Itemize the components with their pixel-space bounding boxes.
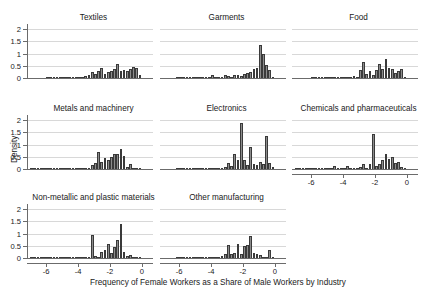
y-tick bbox=[23, 157, 27, 158]
panel-title: Textiles bbox=[27, 13, 160, 23]
plot-area: 00.511.52-6-4-20 bbox=[27, 204, 153, 259]
y-tick bbox=[23, 246, 27, 247]
panel-electronics: Electronics bbox=[160, 104, 293, 187]
plot-area: 00.511.52 bbox=[27, 115, 153, 170]
x-tick-label: -4 bbox=[75, 267, 82, 276]
panel-title: Other manufacturing bbox=[160, 193, 293, 203]
histogram-bar bbox=[372, 134, 375, 170]
panel-title: Metals and machinery bbox=[27, 104, 160, 114]
y-tick-label: 0.5 bbox=[10, 242, 21, 251]
y-tick-label: 0.5 bbox=[10, 62, 21, 71]
plot-area bbox=[160, 24, 286, 79]
panel-garments: Garments bbox=[160, 13, 293, 96]
y-axis-line bbox=[27, 24, 28, 79]
y-axis-line bbox=[27, 115, 28, 170]
x-tick-label: -6 bbox=[176, 267, 183, 276]
zero-baseline bbox=[292, 78, 418, 79]
y-tick-label: 0.5 bbox=[10, 153, 21, 162]
y-axis-line bbox=[27, 204, 28, 259]
bars-group bbox=[292, 24, 418, 79]
plot-area bbox=[292, 24, 418, 79]
zero-baseline bbox=[27, 169, 153, 170]
bars-group bbox=[292, 115, 418, 170]
y-tick-label: 2 bbox=[17, 116, 21, 125]
panel-title: Garments bbox=[160, 13, 293, 23]
x-tick-label: -2 bbox=[240, 267, 247, 276]
panel-metals-and-machinery: Metals and machinery00.511.52 bbox=[27, 104, 160, 187]
bars-group bbox=[27, 24, 153, 79]
zero-baseline bbox=[160, 78, 286, 79]
y-tick-label: 1.5 bbox=[10, 217, 21, 226]
zero-baseline bbox=[160, 258, 286, 259]
panel-textiles: Textiles00.511.52 bbox=[27, 13, 160, 96]
panel-title: Food bbox=[292, 13, 425, 23]
y-tick-label: 2 bbox=[17, 25, 21, 34]
y-tick-label: 2 bbox=[17, 205, 21, 214]
panel-non-metallic-and-plastic-materials: Non-metallic and plastic materials00.511… bbox=[27, 193, 160, 276]
y-tick-label: 1 bbox=[17, 141, 21, 150]
x-tick-label: 0 bbox=[140, 267, 144, 276]
y-tick bbox=[23, 78, 27, 79]
x-tick-label: -2 bbox=[107, 267, 114, 276]
figure-canvas: Density Frequency of Female Workers as a… bbox=[0, 0, 436, 298]
y-tick-label: 0 bbox=[17, 74, 21, 83]
y-tick bbox=[23, 120, 27, 121]
y-tick bbox=[23, 234, 27, 235]
y-tick-label: 1 bbox=[17, 50, 21, 59]
x-tick-label: 0 bbox=[273, 267, 277, 276]
plot-area bbox=[160, 115, 286, 170]
panel-title: Electronics bbox=[160, 104, 293, 114]
x-tick-label: -4 bbox=[340, 178, 347, 187]
x-tick-label: -4 bbox=[208, 267, 215, 276]
plot-area: 00.511.52 bbox=[27, 24, 153, 79]
y-tick bbox=[23, 221, 27, 222]
plot-area: -6-4-20 bbox=[160, 204, 286, 259]
y-tick bbox=[23, 132, 27, 133]
y-tick-label: 0 bbox=[17, 165, 21, 174]
bars-group bbox=[160, 204, 286, 259]
y-tick bbox=[23, 145, 27, 146]
y-tick bbox=[23, 29, 27, 30]
y-tick-label: 1.5 bbox=[10, 128, 21, 137]
bars-group bbox=[160, 115, 286, 170]
zero-baseline bbox=[292, 169, 418, 170]
y-tick bbox=[23, 66, 27, 67]
y-tick-label: 1.5 bbox=[10, 37, 21, 46]
x-tick-label: -6 bbox=[308, 178, 315, 187]
y-tick bbox=[23, 54, 27, 55]
panel-title: Non-metallic and plastic materials bbox=[27, 193, 160, 203]
panel-other-manufacturing: Other manufacturing-6-4-20 bbox=[160, 193, 293, 276]
bars-group bbox=[160, 24, 286, 79]
bars-group bbox=[27, 115, 153, 170]
y-tick bbox=[23, 209, 27, 210]
zero-baseline bbox=[160, 169, 286, 170]
y-tick-label: 0 bbox=[17, 254, 21, 263]
zero-baseline bbox=[27, 258, 153, 259]
panel-food: Food bbox=[292, 13, 425, 96]
plot-area: -6-4-20 bbox=[292, 115, 418, 170]
x-axis-title: Frequency of Female Workers as a Share o… bbox=[0, 278, 436, 287]
panel-title: Chemicals and pharmaceuticals bbox=[292, 104, 425, 114]
y-tick bbox=[23, 258, 27, 259]
zero-baseline bbox=[27, 78, 153, 79]
x-tick-label: -2 bbox=[372, 178, 379, 187]
x-tick-label: 0 bbox=[405, 178, 409, 187]
bars-group bbox=[27, 204, 153, 259]
x-tick-label: -6 bbox=[43, 267, 50, 276]
panel-chemicals-and-pharmaceuticals: Chemicals and pharmaceuticals-6-4-20 bbox=[292, 104, 425, 187]
y-tick-label: 1 bbox=[17, 230, 21, 239]
y-tick bbox=[23, 41, 27, 42]
y-tick bbox=[23, 169, 27, 170]
